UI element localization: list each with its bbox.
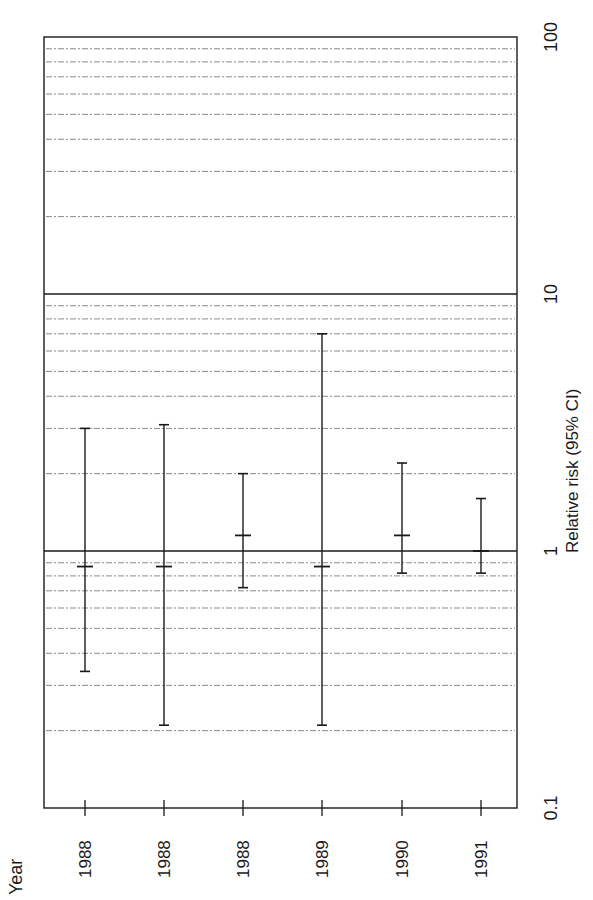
category-label: 1991 bbox=[472, 840, 491, 878]
x-axis-title: Year bbox=[6, 859, 27, 895]
y-tick-label: 0.1 bbox=[541, 795, 561, 820]
y-tick-label: 1 bbox=[541, 546, 561, 556]
forest-plot: 1988198819881989199019910.1110100 bbox=[0, 0, 593, 900]
category-label: 1990 bbox=[393, 840, 412, 878]
y-tick-label: 10 bbox=[541, 284, 561, 304]
category-label: 1988 bbox=[155, 840, 174, 878]
y-axis-title: Relative risk (95% CI) bbox=[563, 389, 583, 553]
plot-frame bbox=[44, 37, 517, 808]
category-label: 1988 bbox=[76, 840, 95, 878]
category-label: 1989 bbox=[313, 840, 332, 878]
y-tick-label: 100 bbox=[541, 22, 561, 52]
category-label: 1988 bbox=[234, 840, 253, 878]
